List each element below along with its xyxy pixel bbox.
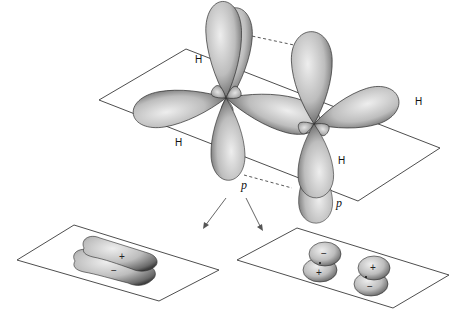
bonding-sign-bottom: − [111, 265, 117, 276]
arrow-to-bonding [203, 198, 226, 229]
ethylene-orbital-diagram: H H H H p p + − − + + − [0, 0, 461, 317]
pi-overlap-top-dash [247, 35, 294, 45]
antibonding-pi-orbital: − + + − [303, 242, 390, 296]
bonding-pi-orbital: + − [74, 236, 157, 285]
antibonding-right-bottom-sign: − [367, 281, 373, 292]
hydrogen-label-bottom-left: H [175, 137, 182, 148]
antibonding-left-bottom-sign: + [316, 267, 322, 278]
antibonding-right-top-sign: + [370, 262, 376, 273]
arrow-to-antibonding [246, 198, 263, 231]
hydrogen-label-top-left: H [195, 54, 202, 65]
hydrogen-label-bottom-right: H [338, 155, 345, 166]
p-orbital-label-left: p [240, 178, 247, 192]
hydrogen-label-right: H [415, 96, 422, 107]
pi-overlap-bottom-dash [244, 175, 292, 188]
antibonding-left-top-sign: − [321, 248, 327, 259]
bonding-sign-top: + [119, 251, 125, 262]
left-carbon-orbitals [130, 1, 324, 181]
p-orbital-label-right: p [335, 196, 342, 210]
antibonding-plane [237, 228, 449, 308]
